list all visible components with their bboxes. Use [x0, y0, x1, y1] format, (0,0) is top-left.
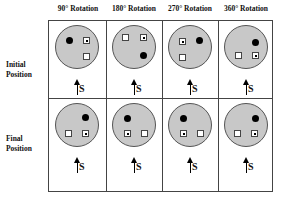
cell-initial-2: S [106, 21, 162, 106]
column-header-180: 180° Rotation [106, 4, 162, 13]
disc [224, 25, 268, 69]
rotation-grid: SSSSSSSS [48, 20, 273, 192]
arrow-up-icon: S [243, 157, 257, 175]
marked-square-icon [83, 37, 90, 44]
black-dot-icon [252, 39, 259, 46]
arrow-up-icon: S [131, 79, 145, 97]
arrow-label: S [79, 83, 85, 94]
arrow-label: S [136, 161, 142, 172]
empty-square-icon [235, 52, 242, 59]
cell-final-4: S [218, 99, 274, 184]
cell-initial-1: S [49, 21, 105, 106]
disc [55, 103, 99, 147]
marked-square-icon [252, 52, 259, 59]
empty-square-icon [141, 130, 148, 137]
arrow-label: S [192, 161, 198, 172]
column-header-90: 90° Rotation [50, 4, 106, 13]
empty-square-icon [179, 54, 186, 61]
arrow-label: S [248, 161, 254, 172]
column-header-360: 360° Rotation [218, 4, 274, 13]
marked-square-icon [124, 130, 131, 137]
arrow-up-icon: S [187, 157, 201, 175]
black-dot-icon [180, 115, 187, 122]
arrow-up-icon: S [74, 79, 88, 97]
arrow-label: S [192, 83, 198, 94]
disc [224, 103, 268, 147]
disc [112, 103, 156, 147]
empty-square-icon [122, 34, 129, 41]
arrow-label: S [136, 83, 142, 94]
row-label-initial: Initial Position [6, 60, 46, 80]
cell-final-2: S [106, 99, 162, 184]
row-label-initial-line2: Position [6, 70, 46, 80]
empty-square-icon [83, 53, 90, 60]
row-label-initial-line1: Initial [6, 60, 46, 70]
black-dot-icon [66, 37, 73, 44]
row-label-final-line2: Position [6, 144, 46, 154]
row-label-final-line1: Final [6, 134, 46, 144]
arrow-label: S [79, 161, 85, 172]
empty-square-icon [65, 130, 72, 137]
marked-square-icon [140, 34, 147, 41]
cell-final-3: S [162, 99, 218, 184]
empty-square-icon [234, 130, 241, 137]
black-dot-icon [82, 114, 89, 121]
cell-final-1: S [49, 99, 105, 184]
arrow-up-icon: S [243, 79, 257, 97]
empty-square-icon [197, 130, 204, 137]
marked-square-icon [251, 130, 258, 137]
black-dot-icon [124, 115, 131, 122]
marked-square-icon [82, 130, 89, 137]
row-label-final: Final Position [6, 134, 46, 154]
black-dot-icon [196, 37, 203, 44]
disc [168, 25, 212, 69]
cell-initial-4: S [218, 21, 274, 106]
arrow-up-icon: S [131, 157, 145, 175]
black-dot-icon [140, 52, 147, 59]
black-dot-icon [252, 115, 259, 122]
column-header-270: 270° Rotation [162, 4, 218, 13]
cell-initial-3: S [162, 21, 218, 106]
marked-square-icon [179, 38, 186, 45]
disc [112, 25, 156, 69]
marked-square-icon [180, 130, 187, 137]
arrow-up-icon: S [74, 157, 88, 175]
disc [168, 103, 212, 147]
arrow-up-icon: S [187, 79, 201, 97]
arrow-label: S [248, 83, 254, 94]
disc [55, 25, 99, 69]
